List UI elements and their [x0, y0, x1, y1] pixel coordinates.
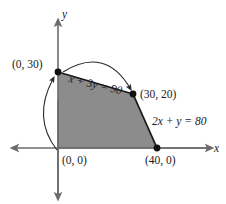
vertex-label-0-30: (0, 30) — [12, 58, 43, 71]
constraint-label-2x-plus-y: 2x + y = 80 — [152, 115, 207, 128]
vertex-label-30-20: (30, 20) — [140, 88, 177, 101]
y-axis-label: y — [61, 8, 68, 21]
vertex-label-0-0: (0, 0) — [62, 154, 87, 167]
figure-canvas: (0, 30) (30, 20) (40, 0) (0, 0) x + 3y =… — [0, 0, 226, 204]
x-axis-label: x — [213, 142, 220, 154]
vertex-label-40-0: (40, 0) — [145, 154, 176, 167]
vertex-dot-40-0 — [154, 145, 161, 152]
linear-programming-figure: (0, 30) (30, 20) (40, 0) (0, 0) x + 3y =… — [0, 0, 226, 204]
vertex-dot-30-20 — [130, 91, 137, 98]
vertex-dot-0-30 — [55, 69, 62, 76]
annotation-arc-to-y-intercept — [43, 79, 57, 150]
